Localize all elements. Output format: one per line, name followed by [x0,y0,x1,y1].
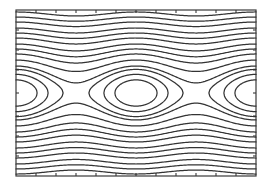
open-contour [16,129,256,137]
contour-lines [16,12,256,174]
open-contour [16,54,256,63]
open-contour [16,28,256,33]
closed-contour [115,80,157,106]
open-contour [16,165,256,169]
axis-ticks [16,10,256,176]
open-contour [16,159,256,164]
closed-contour [16,80,37,106]
open-contour [16,38,256,44]
closed-contour [235,80,256,106]
open-contour [16,17,256,21]
open-contour [16,44,256,51]
contour-plot [0,0,272,191]
open-contour [16,49,256,57]
open-contour [16,135,256,142]
open-contour [16,123,256,132]
open-contour [16,153,256,158]
open-contour [16,142,256,148]
closed-contour [89,69,183,116]
open-contour [16,170,256,174]
open-contour [16,22,256,27]
open-contour [16,12,256,16]
plot-frame [16,10,256,176]
